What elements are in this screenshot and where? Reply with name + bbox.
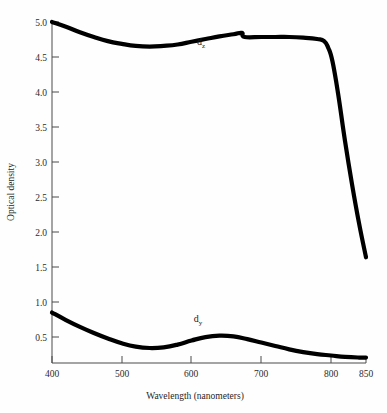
x-tick-label: 400 (45, 369, 60, 379)
y-tick-label: 4.0 (35, 88, 47, 98)
y-tick-label: 2.5 (35, 193, 47, 203)
y-tick-label: 1.0 (35, 298, 47, 308)
x-axis-title: Wavelength (nanometers) (146, 391, 244, 402)
series-curve-dy (52, 313, 366, 358)
series-label-dy-subscript: y (199, 319, 203, 327)
y-tick-label: 2.0 (35, 228, 47, 238)
y-tick-label: 1.5 (35, 263, 47, 273)
series-label-dy: dy (194, 313, 203, 327)
y-axis-title: Optical density (6, 163, 16, 221)
y-tick-label: 0.5 (35, 333, 47, 343)
x-tick-label: 850 (359, 369, 374, 379)
x-tick-label: 600 (184, 369, 199, 379)
y-tick-label: 4.5 (35, 53, 47, 63)
y-tick-label: 3.0 (35, 158, 47, 168)
chart-figure: 5.0 4.5 4.0 3.5 3.0 2.5 2.0 1.5 1.0 0.5 … (0, 0, 387, 413)
optical-density-plot: 5.0 4.5 4.0 3.5 3.0 2.5 2.0 1.5 1.0 0.5 … (0, 0, 387, 413)
x-tick-label: 700 (254, 369, 269, 379)
y-axis-tick-labels: 5.0 4.5 4.0 3.5 3.0 2.5 2.0 1.5 1.0 0.5 (35, 18, 47, 343)
svg-text:dy: dy (194, 313, 203, 327)
x-axis-ticks (52, 356, 366, 363)
y-axis-ticks (52, 22, 59, 337)
x-axis-tick-labels: 400 500 600 700 800 850 (45, 369, 374, 379)
x-tick-label: 500 (115, 369, 130, 379)
x-tick-label: 800 (324, 369, 339, 379)
series-curve-dz (52, 22, 366, 257)
series-label-dz-subscript: z (202, 42, 205, 50)
y-tick-label: 3.5 (35, 123, 47, 133)
y-tick-label: 5.0 (35, 18, 47, 28)
